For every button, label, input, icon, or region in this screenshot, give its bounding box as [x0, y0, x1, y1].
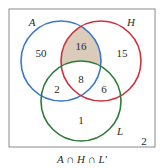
region-h-l-only: 6	[101, 83, 107, 95]
venn-diagram: A H L 50 16 15 2 8 6 1 2 A ∩ H ∩ L′	[0, 0, 166, 168]
region-l-only: 1	[78, 114, 84, 126]
region-a-only: 50	[36, 47, 48, 59]
set-label-l: L	[116, 125, 123, 137]
region-a-l-only: 2	[54, 83, 60, 95]
set-label-h: H	[126, 16, 136, 28]
region-h-only: 15	[117, 47, 129, 59]
diagram-caption: A ∩ H ∩ L′	[56, 153, 107, 165]
set-label-a: A	[28, 16, 36, 28]
region-a-h-l: 8	[78, 73, 84, 85]
region-a-h-only: 16	[76, 40, 88, 52]
region-universe-outside: 2	[141, 135, 147, 147]
